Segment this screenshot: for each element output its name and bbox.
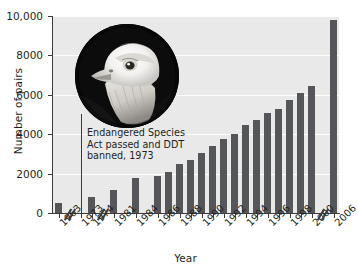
x-axis-tick: [257, 214, 258, 218]
bar: [264, 113, 271, 213]
y-axis-tick-label: 6000: [0, 90, 43, 101]
bar: [198, 153, 205, 213]
bar: [275, 109, 282, 213]
bar: [231, 134, 238, 213]
x-axis-tick: [279, 214, 280, 218]
x-axis-tick: [191, 214, 192, 218]
y-axis-tick: [48, 213, 53, 214]
annotation-endangered-species-act: Endangered Species Act passed and DDT ba…: [87, 127, 185, 162]
annotation-line-1: Endangered Species: [87, 127, 185, 139]
x-axis-tick: [213, 214, 214, 218]
event-marker-line: [81, 114, 82, 213]
bar: [220, 139, 227, 213]
plot-area: Endangered Species Act passed and DDT ba…: [53, 16, 339, 213]
bar: [330, 20, 337, 213]
y-axis-tick-label: 0: [0, 208, 43, 219]
x-axis-title-text: Year: [174, 252, 197, 264]
y-axis-tick-label: 8000: [0, 50, 43, 61]
y-axis-tick-label: 10,000: [0, 11, 43, 22]
x-axis-tick: [169, 214, 170, 218]
bar: [286, 100, 293, 213]
bar: [253, 120, 260, 213]
y-axis-tick: [48, 174, 53, 175]
bald-eagle-photo: [75, 24, 179, 128]
x-axis-tick: [235, 214, 236, 218]
annotation-line-2: Act passed and DDT: [87, 139, 185, 151]
bar: [308, 86, 315, 213]
y-axis-tick: [48, 55, 53, 56]
annotation-line-3: banned, 1973: [87, 150, 185, 162]
y-axis-tick-label: 2000: [0, 169, 43, 180]
bar: [209, 146, 216, 213]
gridline: [53, 16, 339, 17]
y-axis-tick: [48, 134, 53, 135]
x-axis-title: Year: [0, 252, 343, 264]
y-axis-tick-label: 4000: [0, 129, 43, 140]
y-axis-tick: [48, 95, 53, 96]
bar: [55, 203, 62, 213]
y-axis-tick: [48, 16, 53, 17]
x-axis-tick: [301, 214, 302, 218]
bar: [242, 125, 249, 213]
bar: [297, 93, 304, 213]
y-axis-line: [52, 16, 53, 214]
y-axis-title: Number of pairs: [12, 51, 26, 171]
